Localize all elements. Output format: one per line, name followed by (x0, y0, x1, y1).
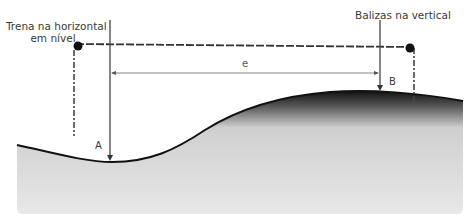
tape-label: Trena na horizontal em nível (6, 20, 100, 44)
dimension-arrow-right-icon (374, 71, 379, 75)
dimension-arrow-left-icon (111, 71, 116, 75)
tape-label-line1: Trena na horizontal (6, 20, 100, 32)
poles-label: Balizas na vertical (355, 9, 451, 21)
point-a-label: A (95, 140, 102, 151)
arrow-b-icon (377, 85, 383, 91)
point-b-label: B (389, 76, 396, 87)
tape-label-line2: em nível (6, 32, 100, 44)
tape-line (76, 44, 411, 47)
arrow-a-icon (107, 155, 113, 161)
ground-profile (17, 91, 463, 214)
distance-e-label: e (242, 58, 248, 69)
right-tape-knob (406, 44, 415, 53)
